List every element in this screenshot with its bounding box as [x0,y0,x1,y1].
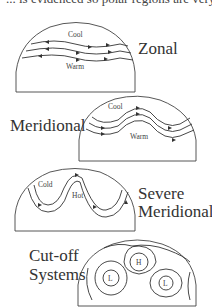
label-cool: Cool [108,102,123,111]
label-cool: Cool [68,30,83,39]
hemisphere-outline [79,96,196,161]
label-low: L [163,279,168,288]
label-cold: Cold [38,180,53,189]
flow-line [87,268,92,300]
panel-severe-meridional: Cold Hot [15,169,135,232]
panel-title-meridional: Meridional [10,117,86,135]
label-warm: Warm [130,132,148,141]
flow-line [92,108,190,125]
flow-line [89,114,192,131]
panel-cut-off-systems: L H L [78,240,196,306]
flow-line [104,244,190,262]
label-hot: Hot [72,191,84,200]
label-high: H [136,258,142,267]
panel-title-cutoff-line2: Systems [29,266,86,284]
label-low: L [108,274,113,283]
panel-zonal: Cool Warm [16,23,135,93]
panel-title-cutoff-line1: Cut-off [29,247,79,265]
label-warm: Warm [66,62,84,71]
flow-line [188,272,190,300]
panel-title-severe-line1: Severe [138,185,184,203]
panel-meridional: Cool Warm [79,96,196,161]
panel-title-zonal: Zonal [138,40,178,58]
panel-title-severe-line2: Meridional [138,203,212,221]
